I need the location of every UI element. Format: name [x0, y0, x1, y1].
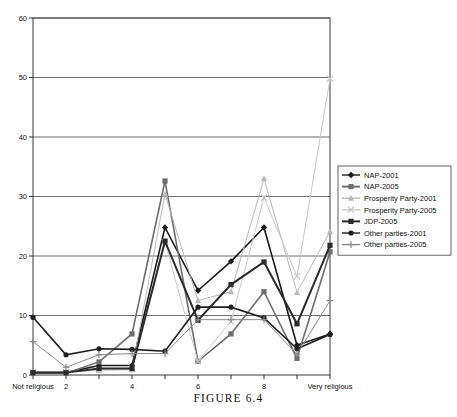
x-axis-tick-label: 8	[262, 382, 266, 391]
legend-label: Other parties-2005	[364, 240, 427, 249]
data-point-marker	[228, 331, 233, 336]
figure-caption: FIGURE 6.4	[0, 392, 457, 404]
data-point-marker	[63, 352, 68, 357]
legend-label: NAP-2001	[364, 171, 399, 180]
data-point-marker	[96, 359, 101, 364]
data-point-marker	[63, 370, 68, 375]
data-point-marker	[228, 305, 233, 310]
y-axis-tick-label: 0	[23, 371, 27, 380]
y-axis-tick-label: 10	[19, 311, 27, 320]
x-axis-tick-label: Not religious	[12, 382, 54, 391]
y-axis-tick-label: 60	[19, 14, 27, 23]
figure-container: 0102030405060Not religious2468Very relig…	[0, 0, 457, 417]
x-axis-tick-label: 4	[130, 382, 134, 391]
data-point-marker	[327, 332, 332, 337]
data-point-marker	[348, 184, 353, 189]
data-point-marker	[195, 305, 200, 310]
data-point-marker	[348, 230, 353, 235]
data-point-marker	[228, 282, 233, 287]
y-axis-tick-label: 30	[19, 192, 27, 201]
line-chart: 0102030405060Not religious2468Very relig…	[0, 0, 457, 417]
x-axis-tick-label: 6	[196, 382, 200, 391]
data-point-marker	[348, 219, 353, 224]
legend-label: Other parties-2001	[364, 229, 427, 238]
legend-label: Prosperity Party-2005	[364, 206, 437, 215]
data-point-marker	[129, 366, 134, 371]
y-axis-tick-label: 50	[19, 73, 27, 82]
data-point-marker	[294, 321, 299, 326]
x-axis-tick-label: 2	[64, 382, 68, 391]
data-point-marker	[162, 239, 167, 244]
y-axis-tick-label: 40	[19, 133, 27, 142]
data-point-marker	[30, 370, 35, 375]
data-point-marker	[162, 178, 167, 183]
data-point-marker	[261, 289, 266, 294]
data-point-marker	[129, 331, 134, 336]
legend-label: Prosperity Party-2001	[364, 194, 437, 203]
data-point-marker	[30, 315, 35, 320]
data-point-marker	[261, 259, 266, 264]
data-point-marker	[327, 243, 332, 248]
y-axis-tick-label: 20	[19, 252, 27, 261]
x-axis-tick-label: Very religious	[307, 382, 352, 391]
legend-label: NAP-2005	[364, 182, 399, 191]
data-point-marker	[96, 346, 101, 351]
data-point-marker	[96, 366, 101, 371]
legend-label: JDP-2005	[364, 217, 397, 226]
